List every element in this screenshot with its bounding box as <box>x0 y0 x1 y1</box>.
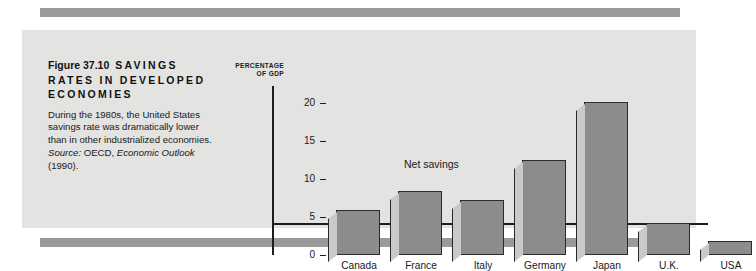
caption-body: During the 1980s, the United States savi… <box>48 109 212 146</box>
plot-area: 05101520 CanadaFranceItalyGermanyJapanU.… <box>272 92 704 255</box>
figure-title: Figure 37.10 SAVINGS RATES IN DEVELOPED … <box>48 58 218 102</box>
x-axis-label-japan: Japan <box>576 260 638 271</box>
y-tick-5: 5 <box>320 217 326 218</box>
y-tick-10: 10 <box>320 179 326 180</box>
figure-caption-block: Figure 37.10 SAVINGS RATES IN DEVELOPED … <box>48 58 218 172</box>
bar-uk[interactable] <box>646 223 690 255</box>
bar-group-canada: Canada <box>328 92 390 255</box>
y-axis-title-line2: OF GDP <box>214 70 284 78</box>
y-tick-label: 20 <box>304 97 315 108</box>
x-axis-label-germany: Germany <box>514 260 576 271</box>
top-decorative-rule <box>40 8 680 17</box>
bar-group-japan: Japan <box>576 92 638 255</box>
bar-chart: PERCENTAGE OF GDP 05101520 CanadaFranceI… <box>218 62 714 254</box>
annotation-net-savings: Net savings <box>404 158 459 170</box>
bar-canada[interactable] <box>336 210 380 255</box>
y-axis-title-line1: PERCENTAGE <box>214 62 284 70</box>
bar-germany[interactable] <box>522 160 566 255</box>
bar-group-uk: U.K. <box>638 92 700 255</box>
y-tick-label: 15 <box>304 135 315 146</box>
y-tick-label: 10 <box>304 173 315 184</box>
x-axis-label-usa: USA <box>700 260 756 271</box>
source-label: Source: <box>48 147 81 158</box>
y-tick-label: 0 <box>309 249 315 260</box>
x-axis-label-canada: Canada <box>328 260 390 271</box>
y-tick-label: 5 <box>309 211 315 222</box>
y-tick-20: 20 <box>320 103 326 104</box>
bar-france[interactable] <box>398 191 442 255</box>
bar-italy[interactable] <box>460 200 504 255</box>
bar-group-italy: Italy <box>452 92 514 255</box>
bar-group-usa: USA <box>700 92 756 255</box>
y-tick-0: 0 <box>320 255 326 256</box>
x-axis-label-france: France <box>390 260 452 271</box>
figure-caption-text: During the 1980s, the United States savi… <box>48 109 218 173</box>
figure-panel: Figure 37.10 SAVINGS RATES IN DEVELOPED … <box>22 30 696 228</box>
x-axis-label-italy: Italy <box>452 260 514 271</box>
bar-group-france: France <box>390 92 452 255</box>
y-axis-title: PERCENTAGE OF GDP <box>214 62 284 78</box>
y-tick-15: 15 <box>320 141 326 142</box>
figure-number: Figure 37.10 <box>48 59 109 71</box>
source-publisher: OECD, <box>84 147 114 158</box>
source-work: Economic Outlook <box>117 147 195 158</box>
source-year: (1990). <box>48 160 78 171</box>
bar-series-net-savings: CanadaFranceItalyGermanyJapanU.K.USA <box>328 92 756 255</box>
bar-usa[interactable] <box>708 241 752 255</box>
bar-japan[interactable] <box>584 102 628 255</box>
x-axis-label-uk: U.K. <box>638 260 700 271</box>
bar-group-germany: Germany <box>514 92 576 255</box>
